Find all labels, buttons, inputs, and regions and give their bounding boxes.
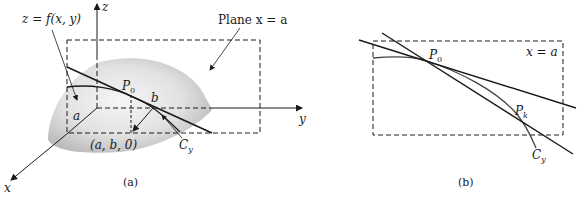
plane-label: Plane x = a [218,13,287,27]
curve-label: Cy [179,138,193,154]
caption-b: (b) [458,176,474,189]
plane-pointer [210,28,240,70]
panel-a: z = f(x, y) Plane x = a P0 b a (a, b, 0)… [4,0,306,195]
surface-label: z = f(x, y) [21,12,81,26]
panel-b: P0 x = a Pk Cy (b) [359,33,576,189]
figure: z = f(x, y) Plane x = a P0 b a (a, b, 0)… [0,0,584,200]
base-point-label: (a, b, 0) [90,138,137,152]
x-axis-lower [11,133,68,180]
z-axis-label: z [101,0,109,14]
x-axis-label: x [4,181,11,195]
a-label: a [73,109,80,123]
plane-label-b: x = a [526,45,558,59]
pk-label-b: Pk [514,104,528,120]
caption-a: (a) [123,176,138,189]
curve-label-b: Cy [532,148,546,164]
y-axis-label: y [298,112,306,126]
surface-pointer [52,30,77,100]
b-label: b [151,91,159,105]
p0-label-b: P0 [428,48,442,64]
